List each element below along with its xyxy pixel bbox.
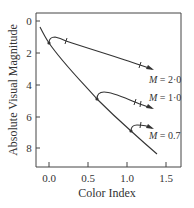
y-axis-title: Absolute Visual Magnitude	[6, 24, 20, 156]
x-tick-label: 0.5	[81, 172, 95, 184]
label-m-0-7: M = 0.7	[148, 130, 180, 141]
x-axis	[49, 162, 166, 167]
track-tick-mark	[140, 101, 141, 107]
y-tick-label: 0	[26, 15, 32, 27]
main-sequence-curve	[40, 27, 157, 154]
hr-diagram-chart: 0 2 4 6 8 0.0 0.5 1.0 1.5 Color Index Ab…	[0, 0, 194, 208]
y-axis	[36, 21, 40, 148]
track-m-1-0	[97, 92, 152, 108]
track-m-2-0	[49, 37, 152, 69]
arrowhead-icon	[146, 104, 154, 109]
x-tick-label: 0.0	[42, 172, 56, 184]
track-tick-mark	[140, 122, 141, 128]
arrowhead-icon	[146, 124, 154, 129]
y-tick-label: 4	[26, 79, 32, 91]
track-start-dot	[95, 97, 98, 100]
y-tick-label: 6	[26, 111, 32, 123]
x-tick-label: 1.5	[159, 172, 173, 184]
label-m-1-0: M = 1·0	[148, 92, 181, 103]
arrowhead-icon	[146, 65, 154, 70]
x-axis-title: Color Index	[78, 186, 136, 200]
x-tick-label: 1.0	[120, 172, 134, 184]
track-start-dot	[129, 129, 132, 132]
y-tick-label: 8	[26, 142, 32, 154]
label-m-2-0: M = 2·0	[148, 74, 181, 85]
y-tick-label: 2	[26, 47, 32, 59]
axes-frame	[36, 13, 181, 167]
track-start-dot	[47, 41, 50, 44]
